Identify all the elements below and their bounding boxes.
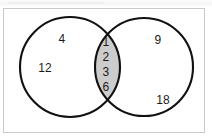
left-region-value-2: 12 <box>31 62 59 74</box>
right-region-value-1: 9 <box>144 34 172 46</box>
intersection-value-4: 6 <box>103 81 110 93</box>
intersection-value-stack: 1 2 3 6 <box>92 36 120 93</box>
intersection-value-1: 1 <box>103 36 110 48</box>
intersection-value-2: 2 <box>103 51 110 63</box>
left-region-value-1: 4 <box>48 33 76 45</box>
intersection-value-3: 3 <box>103 66 110 78</box>
venn-stage: 4 12 1 2 3 6 9 18 <box>0 0 212 137</box>
venn-diagram-figure: 4 12 1 2 3 6 9 18 <box>0 0 212 137</box>
right-region-value-2: 18 <box>149 94 177 106</box>
